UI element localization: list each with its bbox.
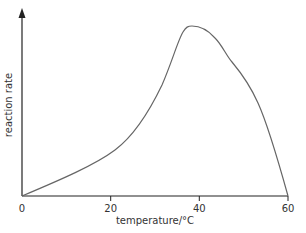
x-tick-label-20: 20 — [104, 203, 117, 214]
x-tick-label-40: 40 — [193, 203, 206, 214]
y-axis-arrow-icon — [19, 8, 26, 18]
x-tick-label-0: 0 — [19, 203, 25, 214]
chart-canvas — [0, 0, 306, 233]
reaction-rate-curve — [22, 26, 288, 196]
y-axis-label: reaction rate — [3, 73, 14, 137]
x-axis-label: temperature/°C — [116, 215, 194, 226]
x-tick-label-60: 60 — [282, 203, 295, 214]
